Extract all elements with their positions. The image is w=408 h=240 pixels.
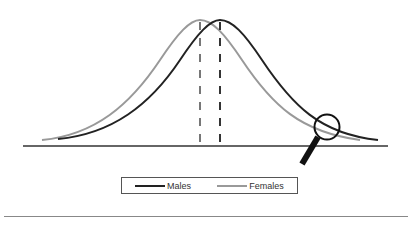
legend-item-males: Males [135,181,191,191]
males-swatch [135,185,165,187]
females-swatch [217,185,247,187]
legend-label-females: Females [249,181,284,191]
males-curve [58,20,378,140]
legend: Males Females [121,177,298,194]
legend-item-females: Females [217,181,284,191]
bottom-divider [4,216,408,217]
legend-label-males: Males [167,181,191,191]
